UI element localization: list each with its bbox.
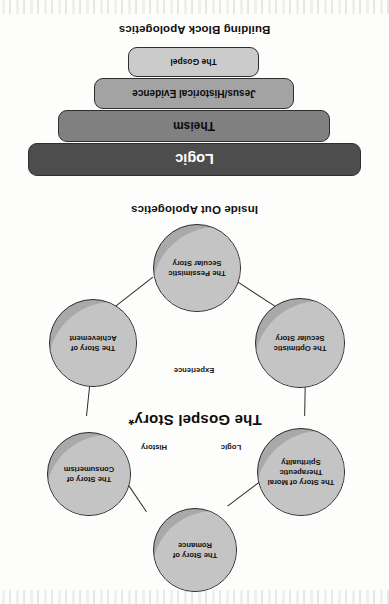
axis-label-logic: Logic [196,443,266,452]
block-jesus-historical-evidence-label: Jesus/Historical Evidence [132,88,255,99]
story-circle-romance[interactable]: The Story of Romance [153,508,237,592]
block-theism-label: Theism [173,119,215,133]
scanned-page: The Gospel Story* History Logic Experien… [0,0,389,604]
block-logic-label: Logic [175,152,214,168]
story-circle-optimistic-label: The Optimistic Secular Story [256,333,344,352]
story-circle-achievement[interactable]: The Story of Achievement [49,299,137,387]
story-circle-pessimistic-label: The Pessimistic Secular Story [154,258,240,277]
building-block-apologetics-caption: Building Block Apologetics [0,24,389,36]
story-circle-consumerism[interactable]: The Story of Consumerism [47,432,131,516]
story-circle-optimistic[interactable]: The Optimistic Secular Story [255,298,345,388]
inside-out-apologetics-caption: Inside Out Apologetics [0,204,389,216]
block-the-gospel-label: The Gospel [170,57,216,67]
axis-label-experience: Experience [159,366,229,375]
block-logic[interactable]: Logic [28,143,361,176]
story-circle-romance-label: The Story of Romance [154,540,236,559]
inside-out-apologetics-diagram: The Gospel Story* History Logic Experien… [0,225,389,600]
story-circle-achievement-label: The Story of Achievement [50,333,136,352]
story-circle-consumerism-label: The Story of Consumerism [48,464,130,483]
center-title: The Gospel Story* [95,412,295,429]
story-circle-pessimistic[interactable]: The Pessimistic Secular Story [153,224,241,312]
block-jesus-historical-evidence[interactable]: Jesus/Historical Evidence [94,78,294,109]
block-the-gospel[interactable]: The Gospel [128,47,259,77]
story-circle-moral-therapeutic[interactable]: The Story of Moral Therapeutic Spiritual… [257,428,345,516]
block-theism[interactable]: Theism [58,110,330,142]
story-circle-moral-therapeutic-label: The Story of Moral Therapeutic Spiritual… [258,457,344,486]
